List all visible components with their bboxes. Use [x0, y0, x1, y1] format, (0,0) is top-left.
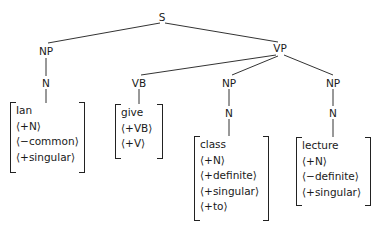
- word: class: [200, 137, 269, 153]
- right-bracket: [263, 136, 269, 221]
- feature: ⟨+N⟩: [302, 154, 371, 170]
- feature: ⟨+N⟩: [16, 119, 85, 135]
- lexical-entry-give: give ⟨+VB⟩ ⟨+V⟩: [115, 104, 163, 159]
- node-n-object1: N: [225, 107, 233, 119]
- feature: ⟨−common⟩: [16, 134, 85, 150]
- feature: ⟨+singular⟩: [16, 150, 85, 166]
- node-np-subject: NP: [39, 45, 53, 57]
- feature: ⟨+definite⟩: [200, 168, 269, 184]
- right-bracket: [365, 137, 371, 206]
- word: Ian: [16, 103, 85, 119]
- node-s: S: [159, 11, 166, 23]
- left-bracket: [115, 104, 121, 159]
- feature: ⟨+to⟩: [200, 199, 269, 215]
- left-bracket: [10, 102, 16, 173]
- lexical-entry-class: class ⟨+N⟩ ⟨+definite⟩ ⟨+singular⟩ ⟨+to⟩: [194, 136, 269, 221]
- node-vb: VB: [132, 77, 146, 89]
- lexical-entry-ian: Ian ⟨+N⟩ ⟨−common⟩ ⟨+singular⟩: [10, 102, 85, 173]
- feature: ⟨+singular⟩: [302, 185, 371, 201]
- lexical-entry-lecture: lecture ⟨+N⟩ ⟨−definite⟩ ⟨+singular⟩: [296, 137, 371, 206]
- node-n-subject: N: [42, 77, 50, 89]
- right-bracket: [79, 102, 85, 173]
- right-bracket: [157, 104, 163, 159]
- edge-s-vp: [165, 23, 278, 42]
- feature: ⟨−definite⟩: [302, 169, 371, 185]
- edge-s-np: [48, 23, 160, 43]
- feature: ⟨+singular⟩: [200, 184, 269, 200]
- left-bracket: [296, 137, 302, 206]
- node-np-object2: NP: [326, 77, 340, 89]
- word: lecture: [302, 138, 371, 154]
- edge-vp-np1: [232, 56, 278, 75]
- left-bracket: [194, 136, 200, 221]
- node-vp: VP: [273, 42, 287, 54]
- feature: ⟨+N⟩: [200, 153, 269, 169]
- node-n-object2: N: [329, 107, 337, 119]
- node-np-object1: NP: [222, 77, 236, 89]
- edge-vp-np2: [284, 55, 333, 75]
